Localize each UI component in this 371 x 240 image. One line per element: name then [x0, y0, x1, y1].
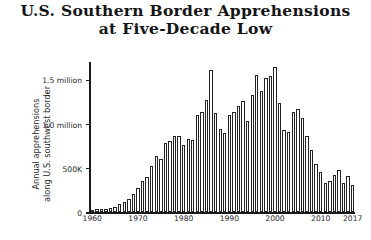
bar — [228, 115, 231, 212]
bar — [205, 100, 208, 212]
bar — [346, 176, 349, 212]
bar — [269, 76, 272, 212]
bar — [113, 207, 116, 212]
y-axis-title: Annual apprehensions along U.S. southwes… — [18, 74, 64, 214]
bar — [104, 209, 107, 212]
bar — [255, 75, 258, 212]
x-axis-tick-label: 1980 — [174, 214, 193, 223]
bar — [164, 143, 167, 212]
y-axis-tick-label: 1.5 million — [42, 76, 82, 85]
bar — [342, 183, 345, 212]
bar-series — [90, 62, 355, 212]
bar — [100, 209, 103, 212]
chart-title-line-1: U.S. Southern Border Apprehensions — [0, 2, 371, 20]
bar — [232, 112, 235, 212]
bar — [241, 101, 244, 212]
y-axis-tick-label: 0 — [77, 208, 82, 217]
chart-title-line-2: at Five-Decade Low — [0, 20, 371, 38]
bar — [282, 130, 285, 212]
bar — [278, 103, 281, 212]
bar — [301, 118, 304, 213]
bar — [155, 156, 158, 212]
bar — [127, 199, 130, 212]
bar — [159, 159, 162, 212]
bar — [314, 164, 317, 212]
bar — [141, 181, 144, 212]
bar — [264, 78, 267, 212]
y-axis-tick-label: 1.0 million — [42, 120, 82, 129]
x-axis-tick-label: 1990 — [220, 214, 239, 223]
chart-container: U.S. Southern Border Apprehensions at Fi… — [0, 0, 371, 240]
bar — [260, 91, 263, 212]
bar — [173, 136, 176, 212]
bar — [191, 140, 194, 212]
chart-title: U.S. Southern Border Apprehensions at Fi… — [0, 2, 371, 38]
y-axis-title-line-2: along U.S. southwest border — [41, 86, 51, 202]
bar — [209, 70, 212, 213]
bar — [109, 208, 112, 212]
bar — [182, 145, 185, 212]
y-axis-tick: 1.0 million — [86, 124, 91, 126]
y-axis-tick-label: 500K — [63, 164, 82, 173]
bar — [123, 202, 126, 212]
bar — [287, 132, 290, 212]
y-axis-tick: 1.5 million — [86, 80, 91, 82]
bar — [305, 136, 308, 212]
bar — [214, 113, 217, 212]
bar — [246, 121, 249, 212]
bar — [200, 112, 203, 212]
x-axis-tick-label: 2010 — [311, 214, 330, 223]
bar — [219, 129, 222, 212]
bar — [351, 185, 354, 212]
bar — [95, 209, 98, 212]
bar — [136, 188, 139, 212]
y-axis-tick: 500K — [86, 168, 91, 170]
bar — [328, 181, 331, 212]
bar — [187, 139, 190, 212]
bar — [324, 183, 327, 212]
bar — [251, 95, 254, 212]
bar — [333, 175, 336, 212]
plot-area: 0500K1.0 million1.5 million 196019701980… — [89, 62, 355, 214]
x-axis-tick-label: 2017 — [343, 214, 362, 223]
bar — [273, 67, 276, 212]
bar — [150, 166, 153, 212]
bar — [145, 177, 148, 212]
x-axis-tick-label: 1970 — [128, 214, 147, 223]
bar — [319, 172, 322, 212]
bar — [132, 194, 135, 212]
y-axis-title-line-1: Annual apprehensions — [31, 98, 41, 189]
bar — [177, 136, 180, 213]
bar — [292, 112, 295, 213]
bar — [223, 133, 226, 212]
bar — [118, 204, 121, 212]
bar — [296, 109, 299, 212]
x-axis-tick-label: 1960 — [83, 214, 102, 223]
y-axis-title-text: Annual apprehensions along U.S. southwes… — [31, 86, 52, 202]
bar — [337, 170, 340, 212]
bar — [168, 141, 171, 212]
bar — [196, 115, 199, 213]
bar — [237, 106, 240, 212]
bar — [91, 210, 94, 212]
x-axis-tick-label: 2000 — [265, 214, 284, 223]
bar — [310, 150, 313, 212]
